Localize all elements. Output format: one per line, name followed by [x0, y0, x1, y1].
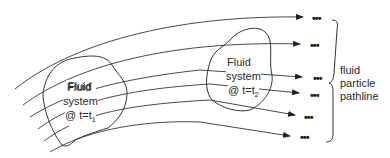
t1-system: system: [63, 95, 98, 108]
brace-label-pathline: pathline: [340, 90, 379, 103]
t1-fluid: Fluid: [67, 81, 91, 94]
brace: [326, 20, 337, 142]
brace-label-fluid: fluid: [340, 64, 360, 77]
continuation-dots-3: •••: [313, 74, 322, 82]
continuation-dots-4: •••: [310, 91, 319, 99]
continuation-dots-6: •••: [300, 133, 309, 141]
brace-label-particle: particle: [340, 77, 375, 90]
continuation-dots-2: •••: [310, 41, 319, 49]
pathline-diagram: Fluid Fluid system @ t=t1 Fluid system @…: [0, 0, 390, 158]
t1-time: @ t=t1: [65, 109, 96, 126]
continuation-dots-1: •••: [312, 14, 321, 22]
continuation-dots-5: •••: [304, 113, 313, 121]
t2-system: system: [226, 70, 261, 83]
t2-fluid: Fluid: [227, 56, 251, 69]
pathlines-drawing: [0, 0, 390, 158]
t2-time: @ t=t2: [228, 84, 259, 101]
